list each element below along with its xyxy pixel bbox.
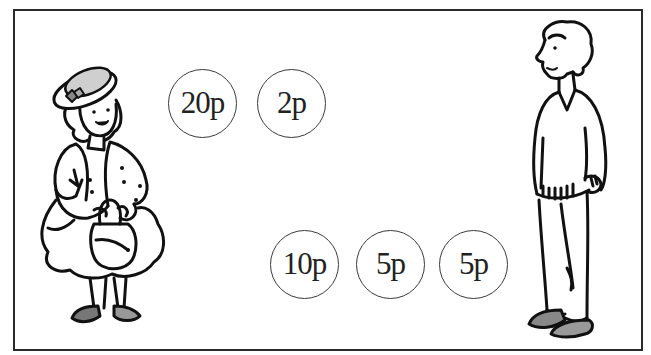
woman-illustration [30,60,170,330]
coin-5p-first: 5p [356,230,425,299]
coin-label: 2p [277,87,306,118]
coin-label: 5p [376,248,405,279]
coin-label: 20p [181,87,225,118]
coin-label: 10p [283,248,327,279]
coin-5p-second: 5p [439,230,508,299]
coin-20p: 20p [168,69,237,138]
man-figure [515,18,625,338]
man-illustration [515,18,625,338]
woman-figure [30,60,170,330]
coin-label: 5p [459,248,488,279]
coin-2p: 2p [257,69,326,138]
coin-10p: 10p [270,230,339,299]
